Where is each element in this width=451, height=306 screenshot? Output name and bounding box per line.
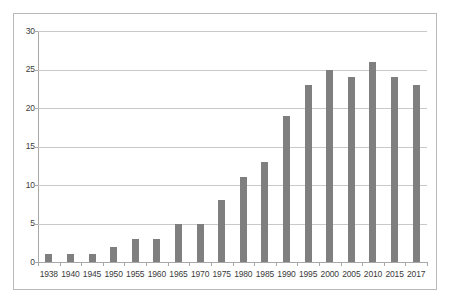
x-tick-mark — [168, 262, 169, 266]
x-tick-label: 1940 — [58, 269, 82, 280]
bar — [283, 116, 290, 262]
x-tick-mark — [297, 262, 298, 266]
bar — [391, 77, 398, 262]
bar — [89, 254, 96, 262]
x-tick-mark — [384, 262, 385, 266]
x-tick-mark — [38, 262, 39, 266]
x-tick-label: 1985 — [253, 269, 277, 280]
x-tick-label: 1975 — [210, 269, 234, 280]
x-tick-mark — [146, 262, 147, 266]
x-tick-label: 2000 — [318, 269, 342, 280]
gridline — [38, 31, 427, 32]
x-tick-label: 1970 — [188, 269, 212, 280]
x-tick-label: 1955 — [123, 269, 147, 280]
x-tick-label: 1990 — [275, 269, 299, 280]
plot-area — [38, 31, 427, 262]
bar — [261, 162, 268, 262]
x-tick-mark — [319, 262, 320, 266]
y-tick-mark — [34, 185, 38, 186]
x-tick-label: 1965 — [166, 269, 190, 280]
y-tick-mark — [34, 147, 38, 148]
bar — [153, 239, 160, 262]
bar — [326, 70, 333, 263]
bar — [197, 224, 204, 263]
x-tick-label: 2015 — [383, 269, 407, 280]
y-tick-label: 20 — [13, 104, 35, 113]
bar-chart-figure: 051015202530 193819401945195019551960196… — [0, 0, 451, 306]
bar — [175, 224, 182, 263]
bar — [305, 85, 312, 262]
bar — [67, 254, 74, 262]
y-tick-mark — [34, 224, 38, 225]
x-tick-mark — [189, 262, 190, 266]
x-tick-mark — [124, 262, 125, 266]
bar — [45, 254, 52, 262]
x-tick-label: 2017 — [404, 269, 428, 280]
y-tick-mark — [34, 262, 38, 263]
bar — [240, 177, 247, 262]
x-tick-mark — [81, 262, 82, 266]
y-tick-label: 30 — [13, 27, 35, 36]
y-tick-label: 10 — [13, 181, 35, 190]
bar — [369, 62, 376, 262]
x-tick-mark — [254, 262, 255, 266]
x-tick-label: 1995 — [296, 269, 320, 280]
x-tick-label: 1945 — [80, 269, 104, 280]
x-tick-mark — [103, 262, 104, 266]
bar — [110, 247, 117, 262]
x-tick-label: 1950 — [102, 269, 126, 280]
x-tick-label: 2005 — [339, 269, 363, 280]
bar — [413, 85, 420, 262]
y-tick-mark — [34, 70, 38, 71]
x-tick-mark — [405, 262, 406, 266]
x-tick-mark — [60, 262, 61, 266]
y-tick-label: 25 — [13, 65, 35, 74]
bar — [218, 200, 225, 262]
bar — [132, 239, 139, 262]
x-tick-label: 1980 — [231, 269, 255, 280]
y-tick-mark — [34, 31, 38, 32]
y-axis-tick-labels: 051015202530 — [10, 0, 35, 306]
x-tick-mark — [362, 262, 363, 266]
y-tick-label: 5 — [13, 219, 35, 228]
x-tick-mark — [211, 262, 212, 266]
x-tick-label: 1960 — [145, 269, 169, 280]
x-tick-label: 2010 — [361, 269, 385, 280]
x-tick-mark — [276, 262, 277, 266]
y-tick-label: 15 — [13, 142, 35, 151]
x-tick-mark — [341, 262, 342, 266]
y-tick-label: 0 — [13, 258, 35, 267]
y-tick-mark — [34, 108, 38, 109]
x-tick-mark — [233, 262, 234, 266]
x-tick-label: 1938 — [37, 269, 61, 280]
x-tick-mark — [427, 262, 428, 266]
bar — [348, 77, 355, 262]
